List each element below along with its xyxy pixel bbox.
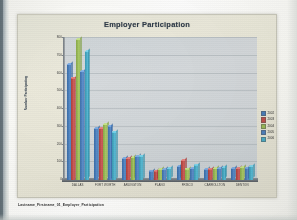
y-tick-label: 300 bbox=[49, 124, 62, 128]
legend-item-2004[interactable]: 2004 bbox=[261, 124, 277, 129]
bar-2002-plano[interactable] bbox=[149, 170, 153, 180]
bar-2004-plano[interactable] bbox=[158, 169, 162, 180]
y-tick-label: 100 bbox=[49, 159, 62, 163]
bar-2005-arlington[interactable] bbox=[135, 156, 139, 180]
y-tick-mark bbox=[62, 73, 64, 74]
bar-2005-frisco[interactable] bbox=[190, 168, 194, 180]
x-tick-label: FRISCO bbox=[174, 183, 201, 187]
page-bottom-shadow bbox=[0, 214, 297, 220]
legend-swatch-icon bbox=[261, 130, 266, 135]
bar-2005-carrollton[interactable] bbox=[217, 168, 221, 180]
x-axis-labels: DALLASFORT WORTHARLINGTONPLANOFRISCOCARR… bbox=[64, 183, 256, 193]
x-tick-label: FORT WORTH bbox=[91, 183, 118, 187]
bar-2005-fort-worth[interactable] bbox=[108, 125, 112, 180]
bar-side-face bbox=[116, 129, 118, 178]
bar-2005-dallas[interactable] bbox=[80, 71, 84, 180]
bar-2006-dallas[interactable] bbox=[85, 51, 89, 180]
bar-2004-fort-worth[interactable] bbox=[103, 124, 107, 180]
legend-label: 2002 bbox=[267, 112, 274, 115]
y-tick-mark bbox=[62, 90, 64, 91]
bar-2002-dallas[interactable] bbox=[67, 64, 71, 180]
legend-swatch-icon bbox=[261, 137, 266, 142]
x-tick-label: CARROLLTON bbox=[201, 183, 228, 187]
legend-label: 2006 bbox=[267, 137, 274, 140]
bar-2006-denton[interactable] bbox=[249, 166, 253, 180]
page-spine-edge bbox=[0, 0, 3, 220]
bar-2002-frisco[interactable] bbox=[177, 166, 181, 180]
bar-2006-arlington[interactable] bbox=[139, 155, 143, 180]
y-tick-label: 700 bbox=[49, 53, 62, 57]
y-tick-mark bbox=[62, 126, 64, 127]
y-tick-label: 500 bbox=[49, 88, 62, 92]
bar-2002-carrollton[interactable] bbox=[204, 169, 208, 180]
bar-2004-arlington[interactable] bbox=[131, 157, 135, 180]
bar-2005-denton[interactable] bbox=[245, 167, 249, 180]
bar-2006-plano[interactable] bbox=[167, 168, 171, 180]
bar-2003-arlington[interactable] bbox=[126, 158, 130, 180]
legend-swatch-icon bbox=[261, 124, 266, 129]
legend-label: 2004 bbox=[267, 125, 274, 128]
legend-label: 2005 bbox=[267, 131, 274, 134]
x-tick-label: PLANO bbox=[146, 183, 173, 187]
chart-title: Employer Participation bbox=[18, 20, 276, 29]
bar-2005-plano[interactable] bbox=[162, 169, 166, 180]
photographed-page: Employer Participation 01002003004005006… bbox=[0, 0, 297, 220]
chart-container[interactable]: Employer Participation 01002003004005006… bbox=[17, 14, 277, 198]
bar-2002-fort-worth[interactable] bbox=[94, 128, 98, 180]
document-caption: Lastname_Firstname_01_Employer_Participa… bbox=[18, 203, 104, 207]
y-tick-mark bbox=[62, 37, 64, 38]
legend-item-2003[interactable]: 2003 bbox=[261, 117, 277, 122]
legend-item-2005[interactable]: 2005 bbox=[261, 130, 277, 135]
bar-2003-denton[interactable] bbox=[236, 168, 240, 180]
y-tick-label: 0 bbox=[49, 177, 62, 181]
gridline bbox=[65, 73, 257, 74]
bar-2004-frisco[interactable] bbox=[185, 168, 189, 180]
bar-2002-arlington[interactable] bbox=[122, 158, 126, 180]
y-tick-mark bbox=[62, 144, 64, 145]
y-axis-ticks: 0100200300400500600700800 bbox=[47, 37, 62, 179]
legend-swatch-icon bbox=[261, 111, 266, 116]
bar-2006-frisco[interactable] bbox=[194, 164, 198, 180]
y-tick-mark bbox=[62, 55, 64, 56]
x-tick-label: DALLAS bbox=[64, 183, 91, 187]
bar-side-face bbox=[198, 162, 200, 178]
bar-side-face bbox=[253, 164, 255, 179]
page-right-shadow bbox=[287, 0, 297, 220]
x-tick-label: DENTON bbox=[229, 183, 256, 187]
legend-label: 2003 bbox=[267, 118, 274, 121]
chart-legend[interactable]: 20022003200420052006 bbox=[261, 111, 277, 143]
y-tick-mark bbox=[62, 179, 64, 180]
bar-side-face bbox=[171, 166, 173, 179]
gridline bbox=[65, 108, 257, 109]
plot-area bbox=[64, 37, 257, 179]
legend-swatch-icon bbox=[261, 117, 266, 122]
y-tick-label: 200 bbox=[49, 142, 62, 146]
bar-2003-carrollton[interactable] bbox=[208, 168, 212, 180]
gridline bbox=[65, 55, 257, 56]
y-axis-title: Number Participating bbox=[24, 67, 28, 119]
bar-2003-plano[interactable] bbox=[154, 170, 158, 180]
y-tick-label: 400 bbox=[49, 106, 62, 110]
bar-2006-fort-worth[interactable] bbox=[112, 131, 116, 180]
bar-2003-fort-worth[interactable] bbox=[99, 128, 103, 180]
bar-2003-frisco[interactable] bbox=[181, 160, 185, 180]
y-tick-label: 800 bbox=[49, 35, 62, 39]
gridline bbox=[65, 126, 257, 127]
gridline bbox=[65, 90, 257, 91]
bar-side-face bbox=[143, 153, 145, 178]
bar-2006-carrollton[interactable] bbox=[222, 167, 226, 180]
bar-2004-dallas[interactable] bbox=[76, 39, 80, 180]
legend-item-2006[interactable]: 2006 bbox=[261, 137, 277, 142]
bar-2003-dallas[interactable] bbox=[71, 77, 75, 180]
y-tick-mark bbox=[62, 108, 64, 109]
y-tick-mark bbox=[62, 161, 64, 162]
bar-2004-carrollton[interactable] bbox=[213, 168, 217, 180]
x-tick-label: ARLINGTON bbox=[119, 183, 146, 187]
legend-item-2002[interactable]: 2002 bbox=[261, 111, 277, 116]
gridline bbox=[65, 37, 257, 38]
y-tick-label: 600 bbox=[49, 71, 62, 75]
bar-2002-denton[interactable] bbox=[231, 168, 235, 180]
